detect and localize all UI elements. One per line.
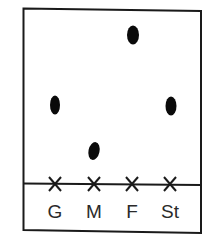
spot-st (166, 97, 177, 116)
plate-border (24, 9, 202, 234)
lane-label-f: F (126, 201, 138, 222)
lane-label-g: G (48, 201, 63, 222)
lane-st: St (161, 97, 180, 223)
spot-g (50, 96, 60, 115)
lane-g: G (48, 96, 63, 223)
lane-f: F (126, 26, 139, 223)
lane-m: M (86, 141, 102, 222)
spot-m (87, 141, 102, 161)
lane-label-st: St (161, 201, 180, 222)
spot-f (127, 26, 139, 45)
baseline (24, 184, 202, 186)
lane-label-m: M (86, 201, 102, 222)
chromatogram-diagram: G M F St (0, 0, 207, 246)
